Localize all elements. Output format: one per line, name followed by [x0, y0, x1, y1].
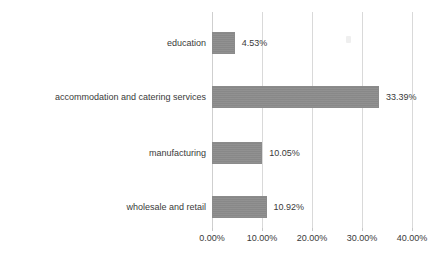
gridline-4000 — [412, 12, 413, 228]
category-label: education — [0, 32, 206, 54]
category-label: wholesale and retail — [0, 196, 206, 218]
bar-texture — [213, 87, 378, 107]
tick-mark — [262, 228, 263, 231]
value-label: 4.53% — [242, 32, 268, 54]
tick-mark — [362, 228, 363, 231]
bar-texture — [213, 197, 266, 217]
bar[interactable] — [212, 86, 379, 108]
bar-row: 33.39% — [212, 86, 412, 108]
value-label: 10.05% — [269, 142, 300, 164]
category-label: accommodation and catering services — [0, 86, 206, 108]
value-label: 33.39% — [386, 86, 417, 108]
tick-mark — [212, 228, 213, 231]
bar-chart: education4.53%accommodation and catering… — [0, 0, 443, 266]
category-label: manufacturing — [0, 142, 206, 164]
tick-mark — [312, 228, 313, 231]
bar-texture — [213, 33, 234, 53]
bar[interactable] — [212, 196, 267, 218]
bar[interactable] — [212, 142, 262, 164]
bar-row: 4.53% — [212, 32, 412, 54]
bar-texture — [213, 143, 261, 163]
bar-row: 10.05% — [212, 142, 412, 164]
tick-mark — [412, 228, 413, 231]
value-label: 10.92% — [274, 196, 305, 218]
bar[interactable] — [212, 32, 235, 54]
bar-row: 10.92% — [212, 196, 412, 218]
x-axis: 0.00%10.00%20.00%30.00%40.00% — [0, 228, 443, 250]
x-tick-label: 40.00% — [382, 233, 442, 243]
